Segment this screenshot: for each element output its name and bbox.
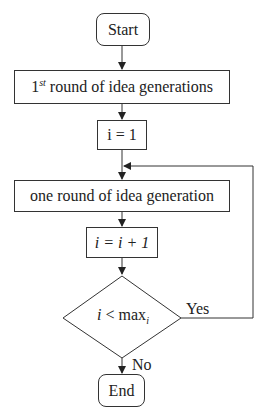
no-label: No: [132, 356, 152, 374]
init-label: i = 1: [107, 126, 136, 144]
end-node: End: [98, 374, 145, 407]
increment-node: i = i + 1: [86, 227, 158, 258]
end-label: End: [109, 382, 135, 400]
first-round-node: 1st round of idea generations: [14, 70, 230, 104]
start-node: Start: [96, 13, 150, 46]
one-round-label: one round of idea generation: [30, 187, 214, 205]
increment-label: i = i + 1: [95, 234, 149, 252]
yes-label: Yes: [186, 300, 209, 318]
decision-label: i < maxi: [88, 306, 158, 326]
init-node: i = 1: [97, 120, 147, 150]
one-round-node: one round of idea generation: [14, 180, 230, 212]
first-round-label: 1st round of idea generations: [31, 77, 213, 96]
start-label: Start: [108, 21, 138, 39]
